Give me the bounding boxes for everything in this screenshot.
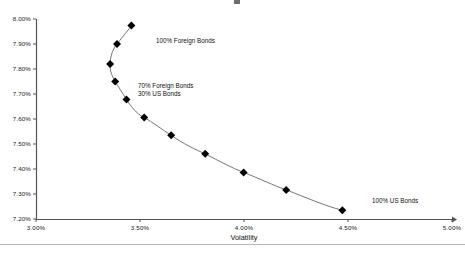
x-tick-label: 3.50% — [120, 224, 160, 231]
x-tick-label: 5.00% — [432, 224, 465, 231]
annotation-foreign-100: 100% Foreign Bonds — [156, 37, 215, 45]
y-tick-label: 7.70% — [0, 90, 31, 97]
annotation-us-100: 100% US Bonds — [372, 197, 418, 205]
x-axis-arrow — [452, 217, 457, 223]
data-point — [338, 206, 346, 214]
y-tick-label: 7.50% — [0, 140, 31, 147]
data-point — [106, 60, 114, 68]
data-point — [113, 40, 121, 48]
x-tick-label: 3.00% — [16, 224, 56, 231]
data-point — [167, 131, 175, 139]
data-point — [127, 22, 135, 30]
x-axis-title: Volatility — [194, 233, 294, 242]
y-tick-label: 7.20% — [0, 215, 31, 222]
data-point — [240, 168, 248, 176]
chart-plot-area — [0, 0, 465, 254]
x-tick-label: 4.50% — [328, 224, 368, 231]
y-tick-label: 7.60% — [0, 115, 31, 122]
data-point — [140, 113, 148, 121]
data-point — [282, 186, 290, 194]
data-point — [123, 96, 131, 104]
chart-container: 8.00% 7.90% 7.80% 7.70% 7.60% 7.50% 7.40… — [0, 0, 465, 254]
page-footer-rule — [0, 244, 465, 245]
y-tick-label: 8.00% — [0, 15, 31, 22]
y-tick-label: 7.40% — [0, 165, 31, 172]
data-point — [201, 150, 209, 158]
y-tick-label: 7.90% — [0, 40, 31, 47]
series-efficient-frontier — [106, 22, 346, 215]
frontier-markers — [106, 22, 346, 215]
axes — [33, 19, 457, 222]
annotation-mix-line-2: 30% US Bonds — [138, 90, 193, 98]
x-tick-label: 4.00% — [224, 224, 264, 231]
annotation-mix-70-30: 70% Foreign Bonds 30% US Bonds — [138, 82, 193, 98]
y-axis-ticks — [33, 19, 36, 219]
annotation-mix-line-1: 70% Foreign Bonds — [138, 82, 193, 90]
y-tick-label: 7.30% — [0, 190, 31, 197]
y-tick-label: 7.80% — [0, 65, 31, 72]
data-point — [111, 78, 119, 86]
